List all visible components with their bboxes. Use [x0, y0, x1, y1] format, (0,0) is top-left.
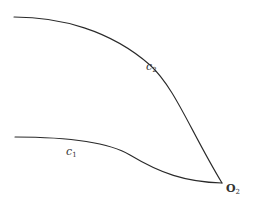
curve-c2-label: c2 [146, 57, 157, 74]
label-subscript: 2 [236, 188, 240, 196]
point-o2-label: O2 [226, 179, 240, 196]
label-subscript: 1 [72, 151, 76, 159]
label-subscript: 2 [152, 66, 156, 74]
curve-c1 [15, 137, 222, 183]
curve-c1-label: c1 [66, 142, 77, 159]
diagram-canvas [0, 0, 253, 202]
label-base: O [226, 182, 236, 195]
curve-c2 [14, 17, 222, 183]
